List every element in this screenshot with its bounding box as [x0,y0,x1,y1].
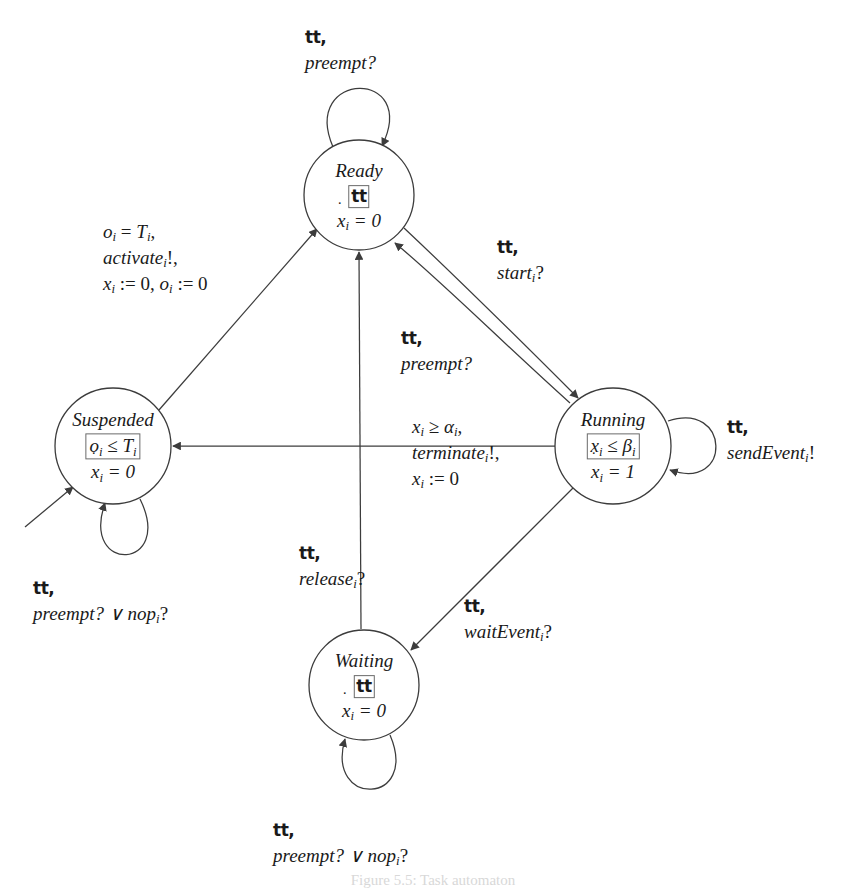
state-invariant-running: xi ≤ βi [581,433,645,459]
state-invariant-suspended: oi ≤ Ti [72,433,153,459]
edge-label-ready-self-preempt: tt, preempt? [305,24,376,76]
edge-label-running-to-suspended-terminate: xi ≥ αi, terminatei!, xi := 0 [412,414,500,493]
state-name-ready: Ready [335,159,382,183]
edge-initial-arrow-suspended [25,487,73,527]
edge-label-running-to-ready-preempt: tt, preempt? [401,325,472,377]
figure-caption: Figure 5.5: Task automaton [0,872,866,889]
state-label-running: Running xi ≤ βi ̇xi = 1 [581,408,645,483]
state-diagram: Ready tt ̇xi = 0 Suspended oi ≤ Ti ̇xi =… [0,0,866,890]
edge-label-running-self-sendevent: tt, sendEventi! [727,414,815,466]
state-label-waiting: Waiting tt ̇xi = 0 [335,649,393,723]
state-name-waiting: Waiting [335,649,393,673]
edge-label-ready-to-running-start: tt, starti? [497,234,544,286]
edge-ready-self-preempt [327,88,389,147]
state-flow-suspended: ̇xi = 0 [72,460,153,484]
state-label-ready: Ready tt ̇xi = 0 [335,159,382,233]
state-flow-ready: ̇xi = 0 [335,209,382,233]
edge-label-suspended-self-preempt-nop: tt, preempt? ∨ nopi? [33,575,168,627]
edge-suspended-self-preempt-nop [101,499,148,555]
state-name-suspended: Suspended [72,408,153,432]
edge-waiting-self-preempt-nop [342,735,396,789]
edge-running-self-sendevent [668,418,716,474]
edge-label-suspended-to-ready-activate: oi = Ti, activatei!, xi := 0, oi := 0 [103,219,208,298]
edge-label-running-to-waiting-waitevent: tt, waitEventi? [464,593,552,645]
state-flow-waiting: ̇xi = 0 [335,699,393,723]
edge-label-waiting-to-ready-release: tt, releasei? [299,540,365,592]
edge-label-waiting-self-preempt-nop: tt, preempt? ∨ nopi? [273,817,408,869]
state-invariant-ready: tt [335,184,382,208]
state-flow-running: ̇xi = 1 [581,460,645,484]
state-invariant-waiting: tt [335,674,393,698]
state-label-suspended: Suspended oi ≤ Ti ̇xi = 0 [72,408,153,483]
state-name-running: Running [581,408,645,432]
